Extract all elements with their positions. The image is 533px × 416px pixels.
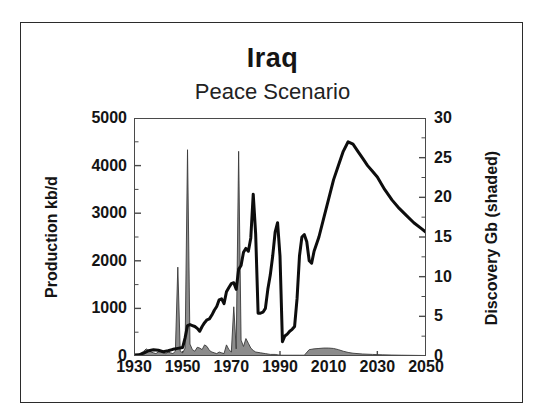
y-axis-label-left: Production kb/d: [43, 118, 65, 356]
y-tick-right-15: 15: [434, 228, 468, 246]
y-tick-right-5: 5: [434, 307, 468, 325]
plot-area: 0100020003000400050000510152025301930195…: [134, 118, 426, 356]
chart-figure: Iraq Peace Scenario Production kb/d Disc…: [0, 0, 533, 416]
y-tick-left-5000: 5000: [49, 109, 127, 127]
y-tick-right-10: 10: [434, 268, 468, 286]
y-tick-left-1000: 1000: [49, 299, 127, 317]
y-axis-label-right: Discovery Gb (shaded): [483, 103, 505, 373]
x-tick-2050: 2050: [396, 358, 456, 376]
y-tick-left-3000: 3000: [49, 204, 127, 222]
y-tick-left-4000: 4000: [49, 157, 127, 175]
y-tick-right-20: 20: [434, 188, 468, 206]
chart-title: Iraq: [21, 43, 524, 74]
plot-frame: [134, 118, 426, 356]
y-tick-right-30: 30: [434, 109, 468, 127]
figure-border: Iraq Peace Scenario Production kb/d Disc…: [20, 22, 523, 403]
y-tick-right-25: 25: [434, 149, 468, 167]
chart-subtitle: Peace Scenario: [21, 79, 524, 105]
y-tick-left-2000: 2000: [49, 252, 127, 270]
